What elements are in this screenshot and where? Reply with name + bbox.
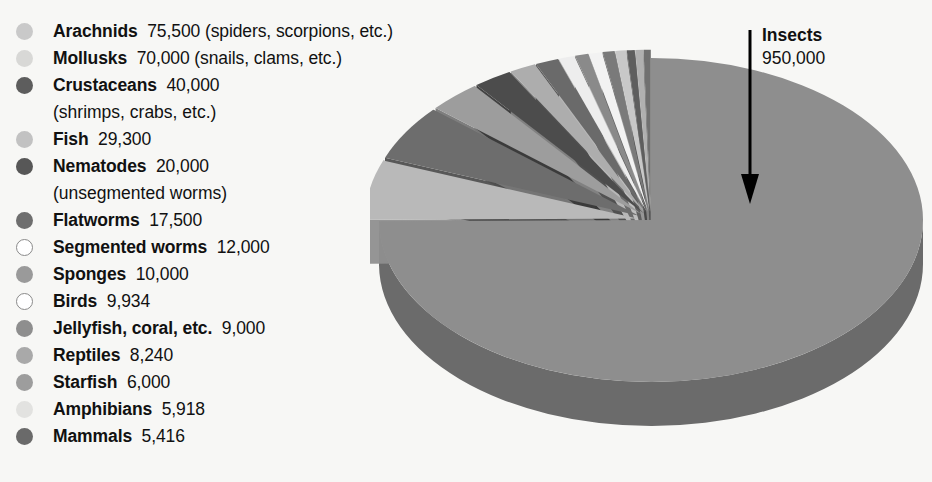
legend-item-value: 5,918 xyxy=(162,399,205,419)
legend-item-text: Flatworms 17,500 xyxy=(53,207,202,234)
legend-item-value: 75,500 xyxy=(147,21,200,41)
legend-swatch-icon xyxy=(16,428,33,445)
legend-swatch-icon xyxy=(16,347,33,364)
legend-item-value: 5,416 xyxy=(142,426,185,446)
legend-item-name: Fish xyxy=(53,129,89,149)
legend-swatch-icon xyxy=(16,50,33,67)
legend-item-text: Segmented worms 12,000 xyxy=(53,234,270,261)
legend-item-value: 29,300 xyxy=(98,129,151,149)
legend-item-text: Starfish 6,000 xyxy=(53,369,170,396)
legend-swatch-icon xyxy=(16,293,33,310)
legend-item-text: Arachnids 75,500 (spiders, scorpions, et… xyxy=(53,18,393,45)
legend-item-name: Reptiles xyxy=(53,345,120,365)
legend-item-text: Birds 9,934 xyxy=(53,288,150,315)
legend-item-text: Jellyfish, coral, etc. 9,000 xyxy=(53,315,265,342)
legend-item-note: (snails, clams, etc.) xyxy=(194,48,342,68)
legend-item-text: Fish 29,300 xyxy=(53,126,151,153)
legend-item-value: 8,240 xyxy=(130,345,173,365)
legend-swatch-icon xyxy=(16,374,33,391)
legend-item-value: 20,000 xyxy=(156,156,209,176)
legend-item-name: Mammals xyxy=(53,426,132,446)
legend-swatch-icon xyxy=(16,320,33,337)
legend-item-text: Crustaceans 40,000 xyxy=(53,72,219,99)
legend-item-text: Mammals 5,416 xyxy=(53,423,185,450)
legend-swatch-icon xyxy=(16,77,33,94)
insects-callout: Insects 950,000 xyxy=(762,24,825,70)
insects-callout-label: Insects xyxy=(762,24,825,47)
legend-swatch-icon xyxy=(16,266,33,283)
legend-item-name: Starfish xyxy=(53,372,117,392)
legend-swatch-icon xyxy=(16,158,33,175)
legend-item-name: Flatworms xyxy=(53,210,140,230)
legend-item-value: 17,500 xyxy=(149,210,202,230)
legend-item-value: 70,000 xyxy=(137,48,190,68)
legend-swatch-icon xyxy=(16,23,33,40)
legend-swatch-icon xyxy=(16,131,33,148)
legend-item-name: Jellyfish, coral, etc. xyxy=(53,318,212,338)
legend-swatch-icon xyxy=(16,212,33,229)
legend-item-value: 6,000 xyxy=(127,372,170,392)
legend-item-text: Reptiles 8,240 xyxy=(53,342,173,369)
insects-callout-value: 950,000 xyxy=(762,47,825,70)
legend-item-name: Crustaceans xyxy=(53,75,157,95)
legend-item-name: Nematodes xyxy=(53,156,146,176)
legend-item-name: Segmented worms xyxy=(53,237,207,257)
legend-item-text: Mollusks 70,000 (snails, clams, etc.) xyxy=(53,45,342,72)
legend-item-text: Amphibians 5,918 xyxy=(53,396,205,423)
legend-item-value: 9,934 xyxy=(107,291,150,311)
legend-item-text: Sponges 10,000 xyxy=(53,261,189,288)
legend-item-name: Arachnids xyxy=(53,21,138,41)
legend-item-name: Amphibians xyxy=(53,399,152,419)
chart-canvas: Arachnids 75,500 (spiders, scorpions, et… xyxy=(0,0,932,482)
legend-swatch-icon xyxy=(16,239,33,256)
legend-item-name: Birds xyxy=(53,291,97,311)
legend-item-value: 40,000 xyxy=(166,75,219,95)
legend-swatch-icon xyxy=(16,401,33,418)
legend-item-name: Mollusks xyxy=(53,48,127,68)
legend-item-text: Nematodes 20,000 xyxy=(53,153,209,180)
pie-chart xyxy=(370,20,932,482)
legend-item-name: Sponges xyxy=(53,264,126,284)
legend-item-value: 12,000 xyxy=(217,237,270,257)
legend-item-note: (spiders, scorpions, etc.) xyxy=(205,21,393,41)
legend-item-value: 10,000 xyxy=(136,264,189,284)
pie-chart-svg xyxy=(370,20,932,482)
legend-item-value: 9,000 xyxy=(222,318,265,338)
